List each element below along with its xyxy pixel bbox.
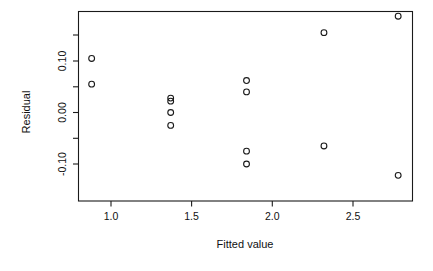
scatter-plot-svg: 0.10 0.00 -0.10 Residual 1.0 1.5 2.0 2.5…: [0, 0, 433, 271]
x-tick-label-1-0: 1.0: [104, 210, 119, 222]
x-tick-label-2-5: 2.5: [346, 210, 361, 222]
y-axis-title: Residual: [20, 91, 32, 134]
x-tick-label-1-5: 1.5: [184, 210, 199, 222]
y-tick-label-0-00: 0.00: [56, 102, 68, 123]
x-axis-title: Fitted value: [217, 238, 274, 250]
y-tick-label-neg-0-10: -0.10: [56, 152, 68, 176]
plot-background: [0, 0, 433, 271]
residual-plot-container: 0.10 0.00 -0.10 Residual 1.0 1.5 2.0 2.5…: [0, 0, 433, 271]
x-tick-label-2-0: 2.0: [265, 210, 280, 222]
y-tick-label-0-10: 0.10: [56, 51, 68, 72]
